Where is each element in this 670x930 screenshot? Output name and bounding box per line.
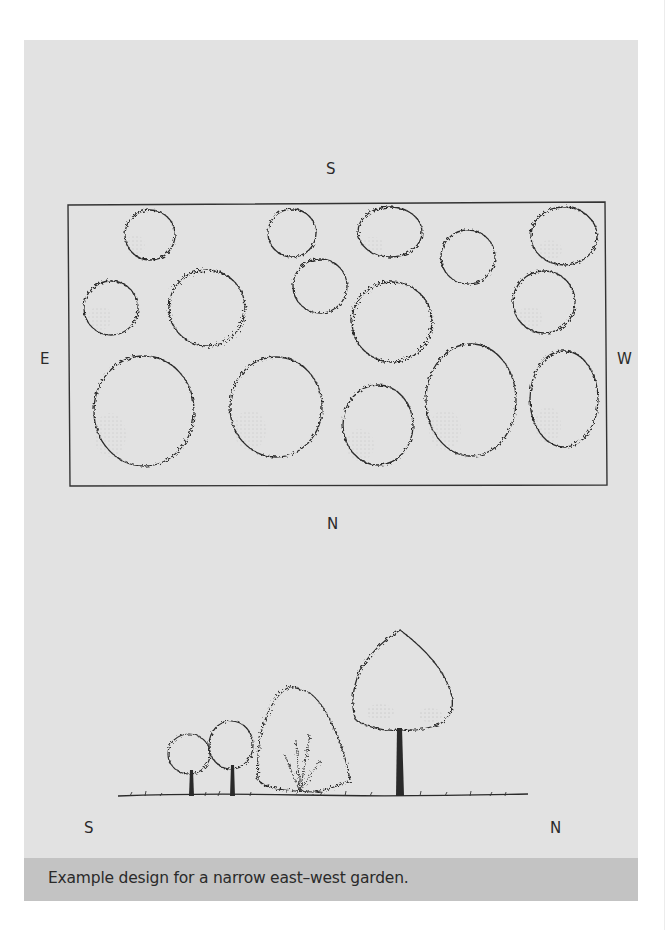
plant-canopy-icon xyxy=(441,230,495,284)
plant-canopy-icon xyxy=(268,209,316,257)
figure-caption: Example design for a narrow east–west ga… xyxy=(48,869,409,887)
garden-illustration xyxy=(0,0,670,930)
plan-plants xyxy=(84,207,598,466)
garden-boundary xyxy=(68,202,607,486)
plant-canopy-icon xyxy=(293,259,347,313)
plan-shading xyxy=(88,235,562,461)
elevation-view xyxy=(118,630,528,796)
spiky-plant-icon xyxy=(352,282,432,362)
ground-line xyxy=(118,794,528,796)
shrub-icon xyxy=(258,687,350,792)
small-tree-icon xyxy=(168,734,210,796)
plan-view xyxy=(68,202,607,486)
small-tree-icon xyxy=(209,721,253,796)
tall-tree-icon xyxy=(353,630,453,796)
plan-spiky-plants xyxy=(169,270,432,362)
spiky-plant-icon xyxy=(169,270,245,346)
